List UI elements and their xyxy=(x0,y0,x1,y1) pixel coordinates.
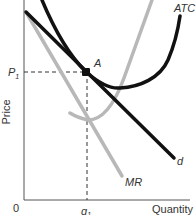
mc-curve xyxy=(70,0,152,120)
q1-label-sub: 1 xyxy=(87,211,91,215)
mr-label: MR xyxy=(125,176,142,188)
q1-label: q1 xyxy=(81,205,91,215)
p1-label: P1 xyxy=(8,66,19,80)
atc-label: ATC xyxy=(173,2,195,14)
p1-label-sub: 1 xyxy=(15,73,19,80)
point-a-marker xyxy=(82,68,90,76)
y-axis-label: Price xyxy=(0,99,12,124)
origin-label: 0 xyxy=(13,202,19,214)
x-axis-label: Quantity xyxy=(152,203,193,215)
point-a-label: A xyxy=(93,57,101,69)
demand-label: d xyxy=(177,155,184,167)
chart: Price Quantity 0 P1 q1 A ATC d MR xyxy=(0,0,196,215)
